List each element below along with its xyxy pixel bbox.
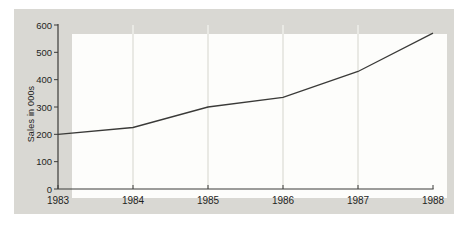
y-axis-tick-label: 0 [20,184,52,195]
x-axis-tick-label: 1984 [113,195,153,206]
y-axis-tick-label: 400 [20,74,52,85]
sales-line-chart [0,0,464,226]
y-axis-tick-label: 500 [20,47,52,58]
y-axis-tick-label: 200 [20,129,52,140]
y-axis-tick-label: 300 [20,102,52,113]
x-axis-tick-label: 1986 [263,195,303,206]
x-axis-tick-label: 1983 [38,195,78,206]
x-axis-tick-label: 1985 [188,195,228,206]
y-axis-tick-label: 600 [20,20,52,31]
sales-series-line [58,33,433,134]
y-axis-tick-label: 100 [20,156,52,167]
chart-page: Sales in 000s 01002003004005006001983198… [0,0,464,226]
x-axis-tick-label: 1988 [413,195,453,206]
x-axis-tick-label: 1987 [338,195,378,206]
